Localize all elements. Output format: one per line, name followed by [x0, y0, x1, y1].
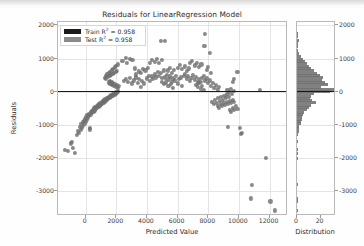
y-axis-tick-label: -3000 [26, 187, 54, 194]
chart-title: Residuals for LinearRegression Model [57, 10, 287, 19]
residuals-distribution-histogram [296, 21, 335, 215]
scatter-point [239, 132, 243, 136]
legend-swatch-train [64, 29, 81, 34]
scatter-point [231, 80, 235, 84]
scatter-point [226, 125, 230, 129]
scatter-point [130, 57, 134, 61]
zero-reference-line [297, 91, 334, 93]
scatter-point [159, 39, 163, 43]
legend-label-train: Train R2 = 0.958 [85, 28, 135, 35]
scatter-point [171, 86, 175, 90]
scatter-point [264, 156, 268, 160]
gridline-horizontal [297, 25, 334, 26]
scatter-point [209, 71, 213, 75]
gridline-horizontal [58, 125, 286, 126]
gridline-horizontal [58, 191, 286, 192]
scatter-point [250, 182, 254, 186]
scatter-plot-area [58, 22, 286, 214]
residuals-scatter-plot [57, 21, 287, 215]
y-axis-tick [54, 24, 57, 25]
legend-item-test[interactable]: Test R2 = 0.958 [64, 36, 142, 44]
legend-label-test: Test R2 = 0.958 [85, 36, 132, 43]
scatter-point [115, 69, 119, 73]
scatter-point [71, 146, 75, 150]
x-axis-tick-label: 12000 [259, 217, 279, 224]
scatter-point [199, 62, 203, 66]
histogram-bar [297, 133, 298, 136]
y-axis-tick-label: -1000 [26, 120, 54, 127]
gridline-vertical [270, 22, 271, 214]
histogram-y-axis-tick [335, 157, 338, 158]
scatter-point [203, 32, 207, 36]
gridline-vertical [116, 22, 117, 214]
histogram-y-axis-tick-label: -3000 [339, 187, 357, 194]
histogram-bar [297, 183, 298, 186]
scatter-point [232, 100, 236, 104]
x-axis-tick-label: 10000 [228, 217, 248, 224]
scatter-point [142, 81, 146, 85]
x-axis-tick-label: 4000 [138, 217, 154, 224]
gridline-horizontal [297, 125, 334, 126]
histogram-plot-area [297, 22, 334, 214]
scatter-point [238, 125, 242, 129]
scatter-point [117, 84, 121, 88]
histogram-bar [297, 209, 298, 212]
y-axis-tick-label: -2000 [26, 154, 54, 161]
gridline-horizontal [297, 158, 334, 159]
figure-canvas: Residuals for LinearRegression Model 200… [0, 0, 364, 246]
y-axis-tick [54, 58, 57, 59]
histogram-y-axis-tick [335, 190, 338, 191]
y-axis-tick [54, 190, 57, 191]
scatter-point [190, 59, 194, 63]
y-axis-title: Residuals [10, 102, 18, 134]
scatter-point [163, 39, 167, 43]
legend[interactable]: Train R2 = 0.958 Test R2 = 0.958 [60, 25, 146, 46]
y-axis-tick [54, 124, 57, 125]
scatter-point [70, 140, 74, 144]
x-axis-tick-label: 8000 [199, 217, 215, 224]
scatter-point [88, 127, 92, 131]
scatter-point [208, 50, 212, 54]
scatter-point [182, 64, 186, 68]
legend-swatch-test [64, 37, 81, 42]
histogram-x-axis-tick-label: 20 [316, 217, 324, 224]
scatter-point [66, 149, 70, 153]
gridline-vertical [178, 22, 179, 214]
gridline-horizontal [297, 191, 334, 192]
x-axis-tick-label: 6000 [169, 217, 185, 224]
histogram-y-axis-tick-label: -2000 [339, 154, 357, 161]
scatter-point [268, 199, 272, 203]
y-axis-tick-label: 1000 [26, 54, 54, 61]
scatter-point [176, 81, 180, 85]
x-axis-tick-label: 0 [83, 217, 87, 224]
histogram-y-axis-tick [335, 124, 338, 125]
histogram-y-axis-tick [335, 91, 338, 92]
histogram-x-axis-tick-label: 0 [294, 217, 298, 224]
scatter-point [273, 208, 277, 212]
scatter-point [202, 43, 206, 47]
scatter-point [249, 196, 253, 200]
y-axis-tick [54, 91, 57, 92]
histogram-y-axis-tick-label: 0 [339, 87, 343, 94]
histogram-y-axis-tick [335, 58, 338, 59]
gridline-vertical [239, 22, 240, 214]
x-axis-tick-label: 2000 [107, 217, 123, 224]
histogram-bar [297, 140, 298, 143]
histogram-x-axis-title: Distribution [295, 228, 335, 236]
scatter-point [206, 65, 210, 69]
scatter-point [180, 84, 184, 88]
scatter-point [125, 61, 129, 65]
histogram-bar [297, 152, 298, 155]
scatter-point [73, 151, 77, 155]
gridline-vertical [147, 22, 148, 214]
scatter-point [139, 71, 143, 75]
y-axis-tick-label: 2000 [26, 21, 54, 28]
histogram-y-axis-tick-label: -1000 [339, 120, 357, 127]
top-banner-strip-fade [0, 5, 364, 8]
y-axis-tick [54, 157, 57, 158]
x-axis-title: Predicted Value [146, 228, 199, 236]
histogram-y-axis-tick-label: 2000 [339, 21, 355, 28]
histogram-y-axis-tick-label: 1000 [339, 54, 355, 61]
histogram-y-axis-tick [335, 24, 338, 25]
histogram-bar [297, 200, 298, 203]
